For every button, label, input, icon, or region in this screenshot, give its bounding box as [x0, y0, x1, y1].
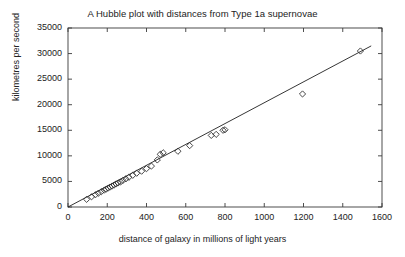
y-tick-label: 20000 [18, 99, 62, 109]
data-points [84, 48, 364, 203]
y-tick-label: 35000 [18, 22, 62, 32]
data-point-marker [208, 132, 214, 138]
x-tick-label: 1600 [357, 212, 405, 222]
y-tick-label: 25000 [18, 73, 62, 83]
hubble-plot-figure: A Hubble plot with distances from Type 1… [0, 0, 405, 257]
axes-frame [68, 28, 382, 207]
y-tick-label: 0 [18, 201, 62, 211]
data-point-marker [213, 131, 219, 137]
y-tick-label: 5000 [18, 175, 62, 185]
data-point-marker [299, 91, 305, 97]
axis-ticks [68, 28, 382, 207]
y-tick-label: 15000 [18, 124, 62, 134]
y-tick-label: 30000 [18, 48, 62, 58]
y-tick-label: 10000 [18, 150, 62, 160]
data-point-marker [130, 172, 136, 178]
